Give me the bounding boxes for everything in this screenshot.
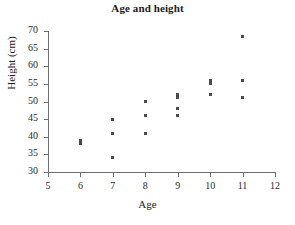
x-tick: 11 xyxy=(243,172,244,177)
y-tick: 45 xyxy=(44,119,48,120)
x-tick-label: 11 xyxy=(233,180,253,191)
x-tick-label: 5 xyxy=(38,180,58,191)
x-tick: 7 xyxy=(113,172,114,177)
y-tick-label: 50 xyxy=(28,95,38,106)
x-tick: 6 xyxy=(80,172,81,177)
y-tick-label: 30 xyxy=(28,165,38,176)
data-point xyxy=(111,156,114,159)
x-tick-label: 8 xyxy=(135,180,155,191)
y-tick: 65 xyxy=(44,49,48,50)
data-point xyxy=(241,79,244,82)
y-tick: 60 xyxy=(44,66,48,67)
data-point xyxy=(79,142,82,145)
y-tick-label: 70 xyxy=(28,24,38,35)
data-point xyxy=(144,114,147,117)
data-point xyxy=(241,35,244,38)
data-point xyxy=(144,100,147,103)
data-point xyxy=(209,93,212,96)
data-point xyxy=(111,132,114,135)
scatter-plot-figure: Age and height Height (cm) Age 303540455… xyxy=(0,0,295,225)
data-point xyxy=(176,114,179,117)
plot-area: 303540455055606570 56789101112 xyxy=(48,31,275,172)
y-tick: 40 xyxy=(44,137,48,138)
y-tick-label: 55 xyxy=(28,77,38,88)
x-tick-label: 7 xyxy=(103,180,123,191)
x-tick-label: 9 xyxy=(168,180,188,191)
x-tick: 10 xyxy=(210,172,211,177)
y-tick-label: 35 xyxy=(28,147,38,158)
x-tick: 12 xyxy=(275,172,276,177)
y-tick: 55 xyxy=(44,84,48,85)
y-axis-label: Height (cm) xyxy=(5,13,17,113)
chart-title: Age and height xyxy=(0,2,295,14)
x-tick: 9 xyxy=(178,172,179,177)
data-point xyxy=(241,96,244,99)
x-tick-label: 6 xyxy=(70,180,90,191)
x-tick: 8 xyxy=(145,172,146,177)
x-tick: 5 xyxy=(48,172,49,177)
y-tick-label: 45 xyxy=(28,112,38,123)
y-axis-line xyxy=(48,31,49,173)
y-tick: 35 xyxy=(44,154,48,155)
y-tick: 70 xyxy=(44,31,48,32)
data-point xyxy=(209,82,212,85)
x-axis-label: Age xyxy=(0,198,295,210)
data-point xyxy=(176,107,179,110)
y-tick-label: 65 xyxy=(28,42,38,53)
y-tick-label: 60 xyxy=(28,59,38,70)
data-point xyxy=(176,96,179,99)
data-point xyxy=(111,118,114,121)
y-tick-label: 40 xyxy=(28,130,38,141)
y-tick: 50 xyxy=(44,102,48,103)
x-tick-label: 12 xyxy=(265,180,285,191)
x-tick-label: 10 xyxy=(200,180,220,191)
data-point xyxy=(144,132,147,135)
